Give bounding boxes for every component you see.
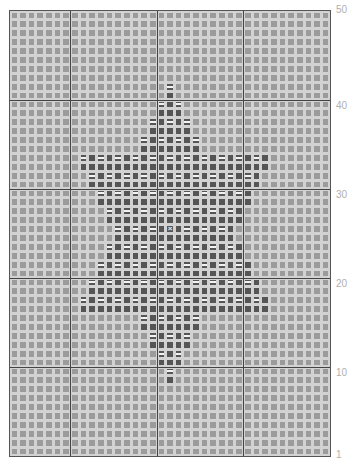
background-stitch [79,349,88,358]
motif-stitch [261,162,270,171]
motif-stitch [192,153,201,162]
background-stitch [122,109,131,118]
motif-stitch [244,198,253,207]
background-stitch [96,323,105,332]
background-stitch [122,100,131,109]
background-stitch [304,438,313,447]
motif-stitch [105,287,114,296]
background-stitch [304,29,313,38]
background-stitch [53,64,62,73]
background-stitch [295,234,304,243]
background-stitch [295,394,304,403]
background-stitch [19,331,28,340]
background-stitch [278,145,287,154]
background-stitch [261,118,270,127]
background-stitch [278,38,287,47]
major-gridline-horizontal [10,100,330,101]
background-stitch [79,171,88,180]
background-stitch [183,412,192,421]
background-stitch [131,349,140,358]
background-stitch [226,82,235,91]
background-stitch [304,207,313,216]
background-stitch [36,438,45,447]
background-stitch [53,162,62,171]
background-stitch [174,412,183,421]
motif-stitch [79,153,88,162]
dash-symbol-icon [115,192,121,194]
background-stitch [114,340,123,349]
background-stitch [166,11,175,20]
background-stitch [88,145,97,154]
motif-stitch [183,296,192,305]
background-stitch [321,100,330,109]
background-stitch [192,73,201,82]
background-stitch [174,403,183,412]
background-stitch [244,225,253,234]
background-stitch [36,242,45,251]
background-stitch [140,38,149,47]
motif-stitch [96,287,105,296]
background-stitch [218,29,227,38]
dash-symbol-icon [133,299,139,301]
background-stitch [27,198,36,207]
background-stitch [313,340,322,349]
motif-stitch [105,207,114,216]
background-stitch [304,38,313,47]
background-stitch [122,323,131,332]
motif-stitch [192,198,201,207]
background-stitch [200,438,209,447]
background-stitch [131,429,140,438]
background-stitch [244,29,253,38]
background-stitch [45,127,54,136]
motif-stitch [209,242,218,251]
dash-symbol-icon [150,121,156,123]
background-stitch [122,429,131,438]
motif-stitch [114,216,123,225]
background-stitch [36,420,45,429]
background-stitch [96,447,105,456]
background-stitch [88,367,97,376]
background-stitch [304,331,313,340]
background-stitch [131,100,140,109]
background-stitch [313,171,322,180]
background-stitch [53,109,62,118]
background-stitch [27,73,36,82]
background-stitch [295,109,304,118]
background-stitch [45,447,54,456]
background-stitch [313,127,322,136]
background-stitch [27,260,36,269]
background-stitch [287,287,296,296]
background-stitch [79,47,88,56]
background-stitch [19,198,28,207]
motif-stitch [114,287,123,296]
background-stitch [131,109,140,118]
background-stitch [313,260,322,269]
background-stitch [304,73,313,82]
background-stitch [71,447,80,456]
background-stitch [295,349,304,358]
dash-symbol-icon [115,299,121,301]
background-stitch [287,367,296,376]
background-stitch [209,109,218,118]
motif-stitch [174,305,183,314]
dash-symbol-icon [176,103,182,105]
background-stitch [122,376,131,385]
motif-stitch [209,216,218,225]
background-stitch [27,278,36,287]
background-stitch [79,225,88,234]
background-stitch [131,376,140,385]
motif-stitch [183,234,192,243]
dash-symbol-icon [184,228,190,230]
motif-stitch [157,118,166,127]
background-stitch [261,20,270,29]
background-stitch [269,234,278,243]
background-stitch [295,242,304,251]
background-stitch [88,447,97,456]
dash-symbol-icon [98,264,104,266]
background-stitch [88,82,97,91]
background-stitch [79,314,88,323]
motif-stitch [131,242,140,251]
background-stitch [88,100,97,109]
background-stitch [252,314,261,323]
background-stitch [45,242,54,251]
